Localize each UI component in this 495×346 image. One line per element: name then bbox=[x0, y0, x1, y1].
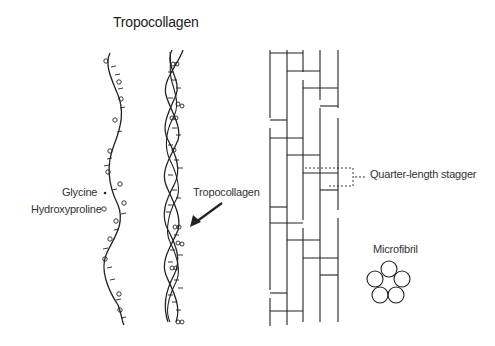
quarter-stagger-bracket bbox=[305, 168, 366, 186]
single-chain bbox=[103, 53, 126, 325]
microfibril-icon bbox=[367, 261, 410, 303]
tropocollagen-arrow-icon bbox=[190, 203, 222, 227]
diagram-canvas bbox=[0, 0, 495, 346]
staggered-fibril bbox=[270, 50, 338, 326]
triple-helix bbox=[164, 50, 184, 324]
hydroxyproline-circle-icon bbox=[102, 207, 106, 211]
glycine-dot-icon bbox=[104, 192, 107, 195]
